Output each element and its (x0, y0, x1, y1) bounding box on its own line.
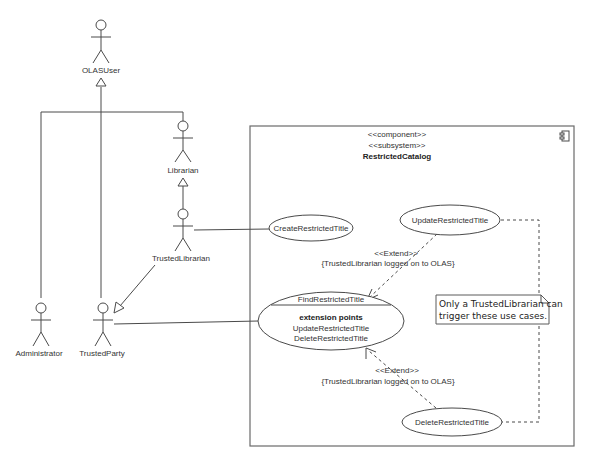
actor-label: Librarian (167, 166, 198, 175)
actor-librarian[interactable]: Librarian (167, 121, 198, 175)
extension-point: UpdateRestrictedTitle (293, 324, 370, 333)
extend-stereotype: <<Extend>> (374, 249, 418, 258)
note[interactable]: Only a TrustedLibrarian can trigger thes… (436, 295, 563, 324)
association-trustedparty-find (114, 321, 259, 324)
usecase-label: DeleteRestrictedTitle (415, 418, 490, 427)
use-case-diagram: <<component>> <<subsystem>> RestrictedCa… (0, 0, 589, 463)
subsystem-frame[interactable]: <<component>> <<subsystem>> RestrictedCa… (250, 126, 574, 446)
extend-condition: {TrustedLibrarian logged on to OLAS} (321, 377, 454, 386)
usecase-label: CreateRestrictedTitle (274, 224, 349, 233)
note-line-1: Only a TrustedLibrarian can (439, 299, 563, 309)
usecase-delete[interactable]: DeleteRestrictedTitle (402, 408, 502, 436)
generalization-arrowhead-icon (178, 178, 188, 186)
generalization-arrowhead-icon (96, 78, 106, 86)
extend-condition: {TrustedLibrarian logged on to OLAS} (321, 259, 454, 268)
usecase-label: UpdateRestrictedTitle (412, 216, 489, 225)
usecase-label: FindRestrictedTitle (298, 295, 365, 304)
subsystem-name: RestrictedCatalog (363, 152, 432, 161)
usecase-find[interactable]: FindRestrictedTitle extension points Upd… (258, 292, 404, 350)
extension-points-header: extension points (299, 313, 363, 322)
extend-stereotype: <<Extend>> (375, 366, 419, 375)
actor-olasuser[interactable]: OLASUser (82, 20, 121, 75)
extension-point: DeleteRestrictedTitle (294, 334, 369, 343)
actor-label: TrustedParty (79, 349, 125, 358)
actor-label: TrustedLibrarian (152, 254, 210, 263)
subsystem-stereotype-subsystem: <<subsystem>> (369, 141, 426, 150)
generalization-lines (41, 78, 188, 313)
subsystem-stereotype-component: <<component>> (368, 130, 427, 139)
actor-trustedlibrarian[interactable]: TrustedLibrarian (152, 209, 210, 263)
actor-label: OLASUser (82, 66, 121, 75)
actor-label: Administrator (15, 349, 62, 358)
actor-administrator[interactable]: Administrator (15, 303, 62, 358)
usecase-create[interactable]: CreateRestrictedTitle (269, 215, 353, 241)
note-line-2: trigger these use cases. (439, 311, 547, 321)
usecase-update[interactable]: UpdateRestrictedTitle (400, 205, 500, 235)
